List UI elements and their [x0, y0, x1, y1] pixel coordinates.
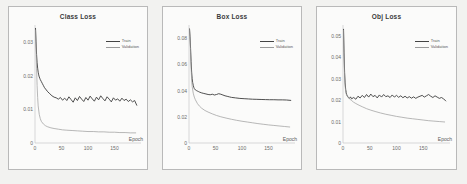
chart-title: Class Loss [9, 13, 147, 20]
legend-label-validation: Validation [276, 45, 293, 49]
legend-label-train: Train [122, 39, 131, 43]
legend-label-validation: Validation [122, 45, 139, 49]
legend: Train Validation [106, 39, 139, 51]
legend-swatch-validation [415, 47, 429, 48]
x-tick-label: 150 [264, 145, 272, 151]
x-tick-label: 100 [84, 145, 92, 151]
legend-label-train: Train [431, 39, 440, 43]
x-tick-label: 50 [367, 145, 373, 151]
y-tick-label: 0.05 [331, 33, 341, 39]
legend: Train Validation [415, 39, 448, 51]
legend-swatch-train [260, 41, 274, 42]
legend-item-train: Train [260, 39, 293, 43]
chart-panel-box-loss: Box Loss 00.020.040.060.08 050100150 Epo… [162, 6, 302, 170]
x-tick-label: 50 [213, 145, 219, 151]
legend-swatch-train [415, 41, 429, 42]
y-tick-label: 0 [184, 140, 187, 146]
legend-swatch-train [106, 41, 120, 42]
legend-item-validation: Validation [106, 45, 139, 49]
x-tick-label: 50 [59, 145, 65, 151]
x-tick-label: 0 [188, 145, 191, 151]
y-tick-label: 0.08 [177, 35, 187, 41]
y-tick-label: 0 [338, 140, 341, 146]
x-axis-title: Epoch [283, 136, 297, 142]
legend-swatch-validation [106, 47, 120, 48]
y-tick-label: 0.04 [177, 88, 187, 94]
x-tick-label: 0 [342, 145, 345, 151]
x-tick-label: 150 [419, 145, 427, 151]
legend-item-validation: Validation [260, 45, 293, 49]
x-axis-labels: 050100150 [35, 145, 141, 157]
legend-item-validation: Validation [415, 45, 448, 49]
y-tick-label: 0.01 [331, 119, 341, 125]
legend-item-train: Train [415, 39, 448, 43]
y-tick-label: 0.03 [23, 39, 33, 45]
legend-label-validation: Validation [431, 45, 448, 49]
y-axis-labels: 00.010.020.030.040.05 [317, 25, 341, 143]
y-tick-label: 0.02 [177, 114, 187, 120]
y-tick-label: 0 [30, 140, 33, 146]
y-axis-labels: 00.020.040.060.08 [163, 25, 187, 143]
y-tick-label: 0.06 [177, 61, 187, 67]
x-tick-label: 0 [34, 145, 37, 151]
x-tick-label: 100 [238, 145, 246, 151]
y-tick-label: 0.02 [23, 73, 33, 79]
y-axis-labels: 00.010.020.03 [9, 25, 33, 143]
legend-label-train: Train [276, 39, 285, 43]
legend: Train Validation [260, 39, 293, 51]
figure-canvas: Class Loss 00.010.020.03 050100150 Epoch… [0, 0, 467, 184]
x-tick-label: 100 [392, 145, 400, 151]
legend-swatch-validation [260, 47, 274, 48]
y-tick-label: 0.02 [331, 97, 341, 103]
chart-panel-obj-loss: Obj Loss 00.010.020.030.040.05 050100150… [316, 6, 457, 170]
x-tick-label: 150 [110, 145, 118, 151]
y-tick-label: 0.01 [23, 106, 33, 112]
chart-title: Box Loss [163, 13, 301, 20]
x-axis-labels: 050100150 [189, 145, 295, 157]
chart-title: Obj Loss [317, 13, 456, 20]
x-axis-title: Epoch [438, 136, 452, 142]
y-tick-label: 0.03 [331, 76, 341, 82]
x-axis-labels: 050100150 [343, 145, 450, 157]
chart-panel-class-loss: Class Loss 00.010.020.03 050100150 Epoch… [8, 6, 148, 170]
y-tick-label: 0.04 [331, 54, 341, 60]
x-axis-title: Epoch [129, 136, 143, 142]
legend-item-train: Train [106, 39, 139, 43]
